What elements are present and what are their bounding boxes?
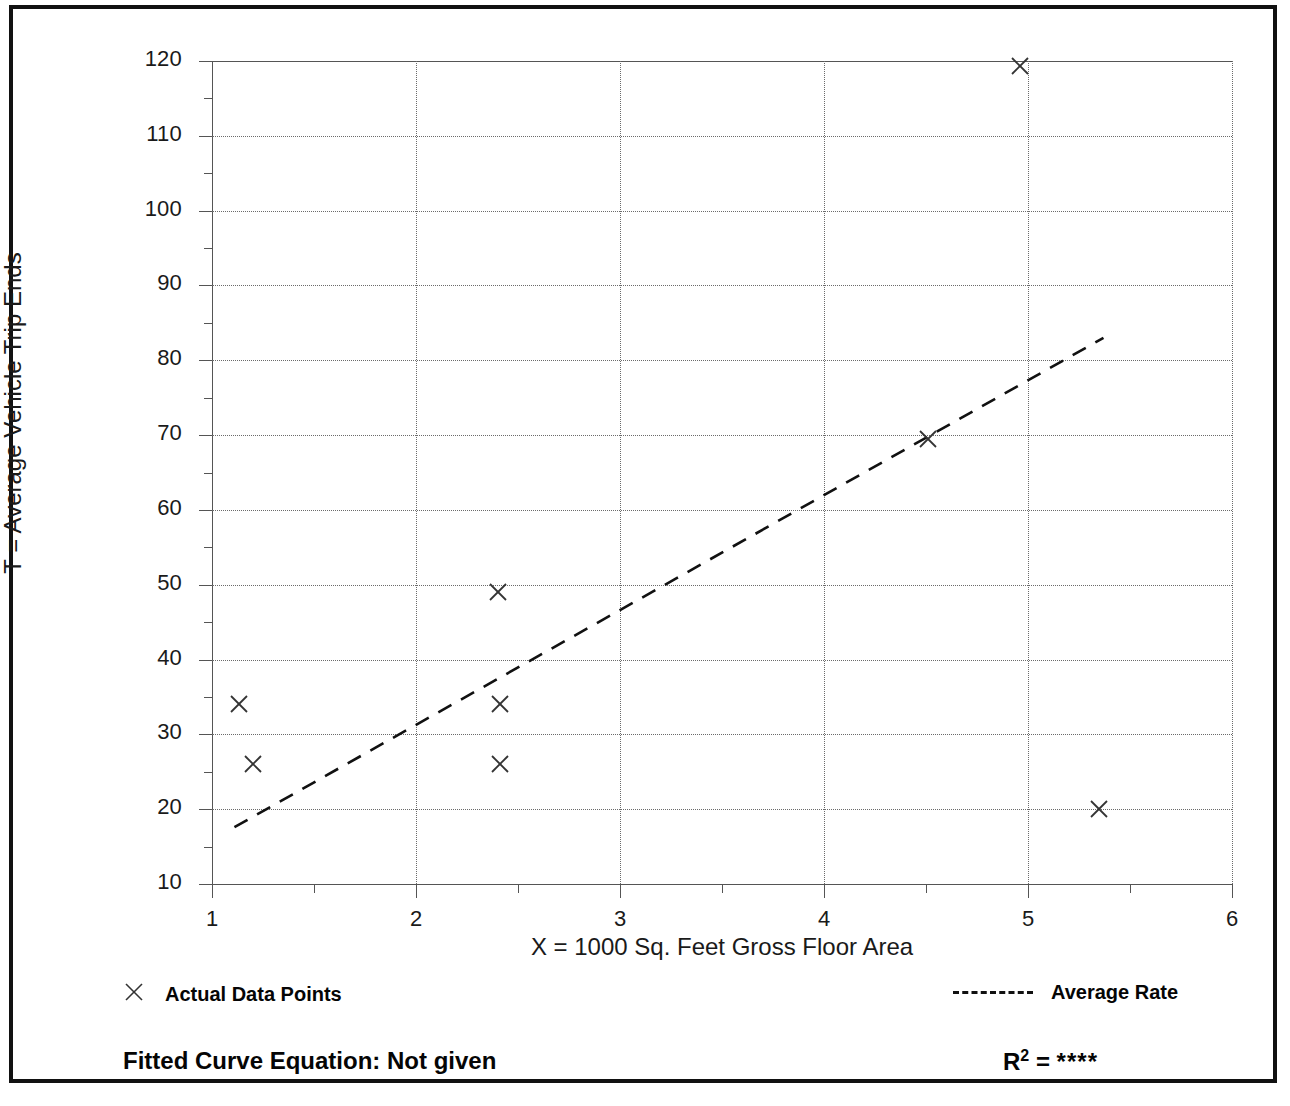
x-axis-minor-tick [1130,884,1131,893]
y-axis-tick [199,285,212,286]
y-axis-minor-tick [204,772,212,773]
y-axis-tick-label: 40 [157,645,182,671]
y-axis-tick-label: 100 [145,196,182,222]
footer: Fitted Curve Equation: Not given R2 = **… [13,1047,1281,1087]
y-axis-tick-label: 60 [157,495,182,521]
x-axis-minor-tick [722,884,723,893]
figure-frame: T = Average Vehicle Trip Ends 1020304050… [9,5,1277,1083]
y-axis-tick-label: 70 [157,420,182,446]
y-axis-minor-tick [204,473,212,474]
gridline-vertical [1232,61,1233,884]
y-axis-minor-tick [204,98,212,99]
x-axis-tick [1232,884,1233,898]
y-axis-tick-label: 80 [157,345,182,371]
y-axis-tick-label: 110 [146,121,182,147]
x-axis-tick [620,884,621,898]
dashed-line-sample-icon [953,991,1033,994]
y-axis-tick [199,585,212,586]
x-axis-minor-tick [314,884,315,893]
y-axis-minor-tick [204,248,212,249]
x-axis-tick [1028,884,1029,898]
plot-area [212,61,1232,884]
x-cross-marker-icon [123,981,145,1007]
x-axis-tick-label: 6 [1192,906,1272,932]
y-axis-title: T = Average Vehicle Trip Ends [0,43,27,783]
r-squared-stars: **** [1057,1048,1098,1075]
y-axis-tick-label: 30 [157,719,182,745]
y-axis-tick [199,136,212,137]
legend-item-actual-data-points: Actual Data Points [123,981,342,1007]
legend: Actual Data Points Average Rate [13,981,1281,1015]
y-axis-minor-tick [204,323,212,324]
y-axis-tick [199,809,212,810]
y-axis-tick [199,211,212,212]
fitted-curve-equation: Fitted Curve Equation: Not given [123,1047,496,1075]
y-axis-tick [199,660,212,661]
figure-page: T = Average Vehicle Trip Ends 1020304050… [0,0,1290,1106]
average-rate-line [212,61,1232,884]
y-axis-tick-label: 120 [145,46,182,72]
x-axis-tick-label: 4 [784,906,864,932]
x-axis-tick [416,884,417,898]
x-axis-tick [212,884,213,898]
y-axis-minor-tick [204,697,212,698]
x-axis-tick-label: 2 [376,906,456,932]
legend-label-average-rate: Average Rate [1051,981,1178,1004]
y-axis-minor-tick [204,622,212,623]
x-axis-minor-tick [926,884,927,893]
y-axis-tick [199,61,212,62]
y-axis-minor-tick [204,173,212,174]
x-axis-tick-label: 3 [580,906,660,932]
y-axis-minor-tick [204,547,212,548]
x-axis-tick-label: 5 [988,906,1068,932]
y-axis-minor-tick [204,847,212,848]
y-axis-tick-label: 50 [157,570,182,596]
y-axis-tick-label: 10 [157,869,182,895]
y-axis-tick [199,884,212,885]
legend-item-average-rate: Average Rate [953,981,1178,1004]
y-axis-tick [199,510,212,511]
y-axis-minor-tick [204,398,212,399]
legend-label-actual-data-points: Actual Data Points [165,983,342,1006]
r-squared-value: R2 = **** [1003,1047,1098,1076]
y-axis-tick [199,734,212,735]
x-axis-title: X = 1000 Sq. Feet Gross Floor Area [212,933,1232,961]
r-squared-symbol: R [1003,1048,1020,1075]
y-axis-tick-label: 90 [157,270,182,296]
y-axis-tick [199,435,212,436]
x-axis-minor-tick [518,884,519,893]
y-axis-tick-label: 20 [157,794,182,820]
x-axis-tick-label: 1 [172,906,252,932]
y-axis-tick [199,360,212,361]
r-squared-equals: = [1029,1048,1056,1075]
x-axis-tick [824,884,825,898]
r-squared-exponent: 2 [1020,1047,1029,1064]
